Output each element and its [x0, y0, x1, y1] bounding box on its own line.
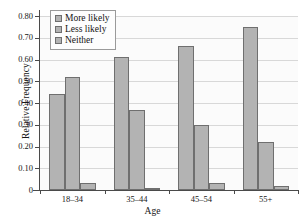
x-tick-label: 35–44: [102, 194, 172, 204]
y-tick-label: 0.50: [18, 77, 33, 86]
y-tick-mark: [35, 60, 40, 61]
y-tick-mark: [35, 16, 40, 17]
y-tick-label: 0.80: [18, 12, 33, 21]
legend-item: Less likely: [55, 24, 110, 35]
y-tick-group: 0.10: [0, 168, 40, 169]
bar: [194, 125, 210, 190]
y-tick-group: 0.20: [0, 147, 40, 148]
y-tick-mark: [35, 168, 40, 169]
y-tick-group: 0.40: [0, 103, 40, 104]
x-axis-title: Age: [0, 206, 305, 216]
legend-swatch-icon: [55, 15, 62, 22]
y-tick-group: 0.70: [0, 38, 40, 39]
y-tick-mark: [35, 81, 40, 82]
y-tick-label: 0.10: [18, 164, 33, 173]
x-axis-line: [33, 190, 299, 191]
bar-chart: Relative Frequency 00.100.200.300.400.50…: [0, 0, 305, 223]
legend-item: More likely: [55, 13, 110, 24]
x-tick-label: 18–34: [37, 194, 107, 204]
bar: [49, 94, 65, 190]
y-tick-mark: [35, 103, 40, 104]
bar: [258, 142, 274, 190]
y-tick-group: 0.30: [0, 125, 40, 126]
y-tick-group: 0.60: [0, 60, 40, 61]
legend: More likelyLess likelyNeither: [50, 10, 116, 50]
legend-item: Neither: [55, 35, 110, 46]
y-tick-label: 0.40: [18, 99, 33, 108]
bar: [178, 46, 194, 190]
y-tick-label: 0.70: [18, 33, 33, 42]
x-tick-label: 55+: [231, 194, 301, 204]
y-tick-group: 0.80: [0, 16, 40, 17]
bar: [243, 27, 259, 190]
y-tick-group: 0.50: [0, 81, 40, 82]
y-tick-mark: [35, 38, 40, 39]
bar: [114, 57, 130, 190]
y-tick-label: 0.30: [18, 120, 33, 129]
bar: [65, 77, 81, 190]
legend-item-label: More likely: [65, 13, 110, 24]
y-tick-mark: [35, 125, 40, 126]
y-tick-group: 0: [0, 190, 40, 191]
legend-item-label: Less likely: [65, 24, 106, 35]
bar: [129, 110, 145, 190]
legend-item-label: Neither: [65, 35, 94, 46]
y-tick-label: 0: [29, 186, 33, 195]
legend-swatch-icon: [55, 37, 62, 44]
legend-swatch-icon: [55, 26, 62, 33]
y-tick-label: 0.60: [18, 55, 33, 64]
y-tick-mark: [35, 147, 40, 148]
y-tick-label: 0.20: [18, 142, 33, 151]
x-tick-label: 45–54: [166, 194, 236, 204]
